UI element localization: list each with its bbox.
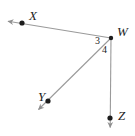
angle-label-4: 4 bbox=[102, 45, 107, 55]
point-w bbox=[109, 36, 113, 40]
point-label-y: Y bbox=[38, 90, 45, 103]
point-label-x: X bbox=[29, 9, 37, 22]
point-x bbox=[19, 20, 24, 25]
point-z bbox=[107, 115, 112, 120]
point-y bbox=[45, 98, 50, 103]
figure-canvas bbox=[0, 0, 135, 136]
point-label-z: Z bbox=[118, 109, 125, 122]
ray-wy bbox=[39, 38, 112, 110]
angle-label-3: 3 bbox=[95, 36, 100, 46]
geometry-figure: X W Y Z 3 4 bbox=[0, 0, 135, 136]
point-label-w: W bbox=[117, 25, 128, 38]
ray-wz bbox=[110, 38, 111, 128]
